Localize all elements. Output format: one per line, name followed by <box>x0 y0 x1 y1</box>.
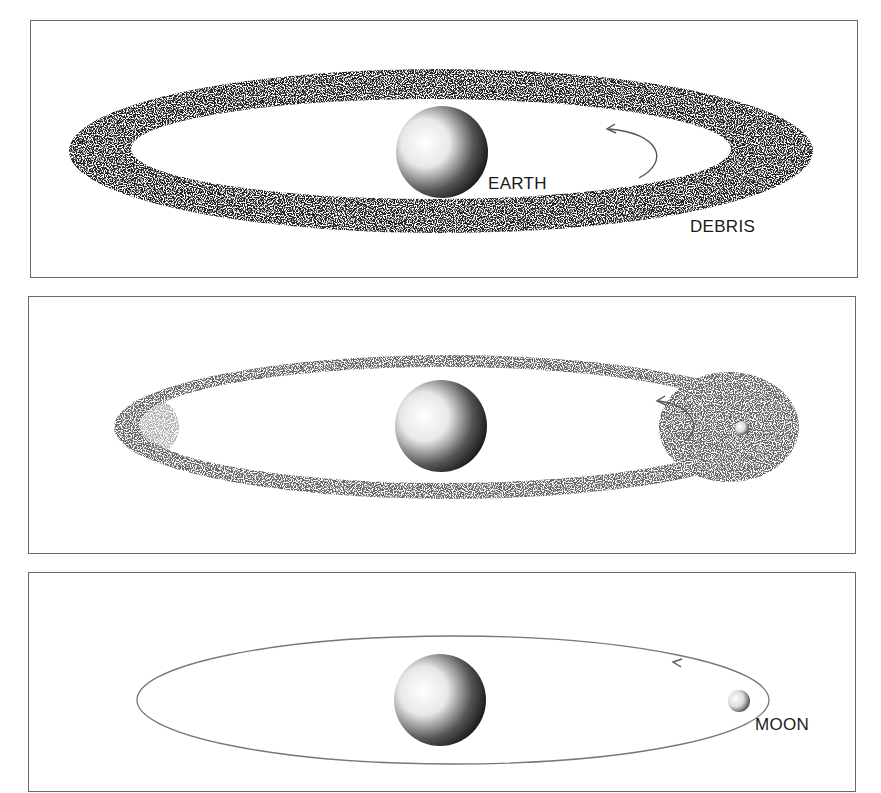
panel-debris-ring: EARTH DEBRIS <box>30 20 858 278</box>
moon-label: MOON <box>755 715 809 735</box>
proto-moon-icon <box>735 421 749 435</box>
moon-forming-illustration <box>29 297 857 555</box>
earth-icon <box>394 654 486 746</box>
orbit-direction-arrow <box>673 659 682 667</box>
earth-icon <box>396 106 488 198</box>
earth-label: EARTH <box>488 174 547 194</box>
earth-icon <box>395 380 487 472</box>
panel-moon-forming <box>28 296 856 554</box>
panel-moon-orbit: MOON <box>28 572 856 792</box>
debris-label: DEBRIS <box>690 217 755 237</box>
debris-ring-illustration <box>31 21 859 279</box>
moon-orbit-illustration <box>29 573 857 793</box>
moon-icon <box>728 690 750 712</box>
